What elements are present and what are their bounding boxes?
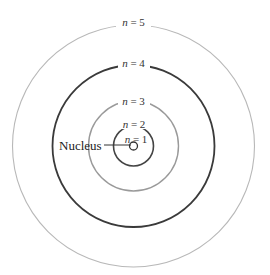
bohr-model-diagram: n = 5 n = 4 n = 3 n = 2 n = 1 Nucleus xyxy=(0,0,270,275)
orbit-label-n2: n = 2 xyxy=(123,118,146,130)
nucleus-label: Nucleus xyxy=(59,138,102,153)
orbit-label-n3: n = 3 xyxy=(122,95,145,107)
orbit-n2 xyxy=(114,126,154,166)
orbit-label-n4: n = 4 xyxy=(122,57,145,69)
orbit-n3 xyxy=(89,101,179,191)
orbit-label-n5: n = 5 xyxy=(122,16,145,28)
